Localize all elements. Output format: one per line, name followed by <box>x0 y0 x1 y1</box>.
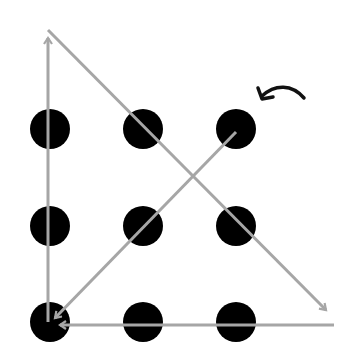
dot-r2-c2 <box>216 302 256 342</box>
curved-arrow-icon <box>258 87 304 99</box>
dot-r1-c0 <box>30 206 70 246</box>
dot-r2-c1 <box>123 302 163 342</box>
dot-r1-c2 <box>216 206 256 246</box>
diagram-svg <box>0 0 350 356</box>
dot-r0-c2 <box>216 109 256 149</box>
segment-1-down-left <box>55 132 236 318</box>
lines-layer <box>48 30 334 325</box>
dot-r0-c1 <box>123 109 163 149</box>
dot-r0-c0 <box>30 109 70 149</box>
nine-dots-diagram <box>0 0 350 356</box>
segment-3-down-right <box>48 30 326 310</box>
